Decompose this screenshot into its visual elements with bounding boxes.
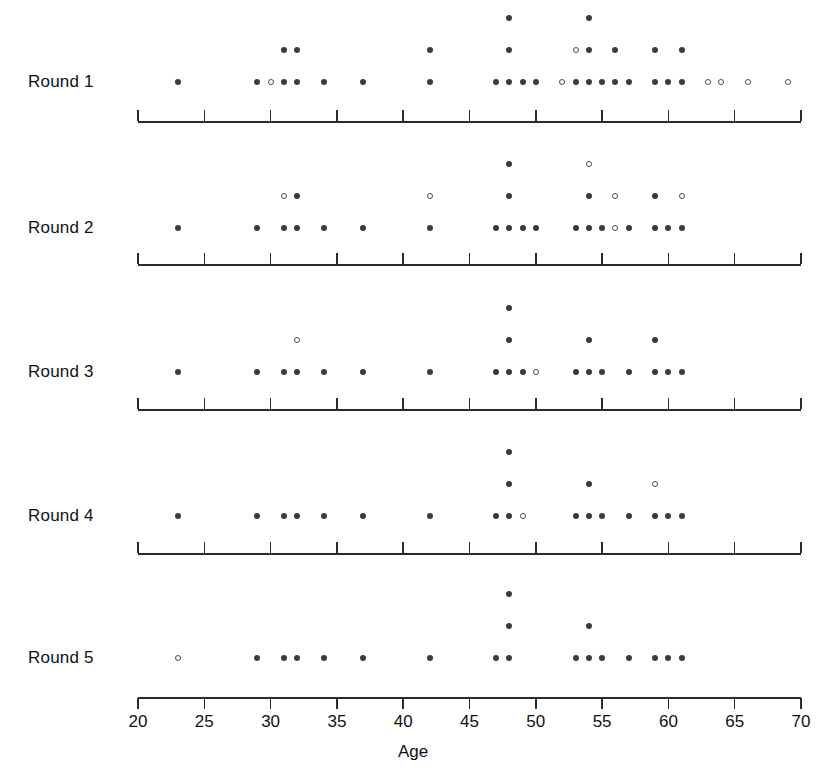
data-point <box>612 225 618 231</box>
axis-tick <box>469 542 471 553</box>
axis-tick <box>601 110 603 121</box>
data-point <box>427 47 433 53</box>
data-point <box>599 79 605 85</box>
data-point <box>586 655 592 661</box>
x-tick-label: 65 <box>725 712 744 732</box>
data-point <box>294 513 300 519</box>
data-point <box>427 79 433 85</box>
axis-tick <box>668 542 670 553</box>
x-tick-label: 50 <box>526 712 545 732</box>
data-point <box>586 513 592 519</box>
axis-tick <box>800 542 802 553</box>
data-point <box>586 337 592 343</box>
data-point <box>281 193 287 199</box>
data-point <box>679 47 685 53</box>
data-point <box>175 655 181 661</box>
axis-tick <box>668 253 670 264</box>
data-point <box>573 79 579 85</box>
axis-tick <box>204 542 206 553</box>
x-tick-label: 20 <box>129 712 148 732</box>
data-point <box>652 225 658 231</box>
data-point <box>493 655 499 661</box>
row-label-2: Round 2 <box>28 218 94 238</box>
data-point <box>573 513 579 519</box>
axis-tick <box>402 542 404 553</box>
axis-tick <box>270 398 272 409</box>
data-point <box>652 481 658 487</box>
data-point <box>321 369 327 375</box>
data-point <box>652 337 658 343</box>
data-point <box>599 225 605 231</box>
axis-tick <box>469 398 471 409</box>
data-point <box>652 655 658 661</box>
axis-tick <box>137 698 139 709</box>
data-point <box>679 369 685 375</box>
data-point <box>506 369 512 375</box>
axis-line-row-1 <box>138 121 801 123</box>
axis-tick <box>668 110 670 121</box>
data-point <box>506 225 512 231</box>
x-tick-label: 25 <box>195 712 214 732</box>
data-point <box>626 369 632 375</box>
x-axis-title: Age <box>0 742 826 762</box>
data-point <box>281 47 287 53</box>
axis-tick <box>601 398 603 409</box>
axis-tick <box>535 253 537 264</box>
data-point <box>573 655 579 661</box>
axis-tick <box>204 110 206 121</box>
axis-tick <box>204 698 206 709</box>
axis-tick <box>734 110 736 121</box>
data-point <box>493 79 499 85</box>
axis-tick <box>336 253 338 264</box>
data-point <box>360 513 366 519</box>
axis-tick <box>601 542 603 553</box>
axis-tick <box>137 542 139 553</box>
data-point <box>281 513 287 519</box>
data-point <box>506 449 512 455</box>
data-point <box>626 225 632 231</box>
row-label-5: Round 5 <box>28 648 94 668</box>
axis-tick <box>270 542 272 553</box>
axis-tick <box>336 398 338 409</box>
x-tick-label: 60 <box>659 712 678 732</box>
data-point <box>506 513 512 519</box>
data-point <box>506 161 512 167</box>
data-point <box>493 513 499 519</box>
data-point <box>294 193 300 199</box>
data-point <box>281 225 287 231</box>
x-tick-label: 30 <box>261 712 280 732</box>
data-point <box>533 79 539 85</box>
data-point <box>427 369 433 375</box>
data-point <box>612 47 618 53</box>
data-point <box>360 79 366 85</box>
data-point <box>427 225 433 231</box>
data-point <box>705 79 711 85</box>
axis-tick <box>800 110 802 121</box>
data-point <box>281 369 287 375</box>
data-point <box>254 225 260 231</box>
data-point <box>506 623 512 629</box>
data-point <box>626 79 632 85</box>
axis-tick <box>800 698 802 709</box>
data-point <box>506 655 512 661</box>
data-point <box>493 225 499 231</box>
data-point <box>586 47 592 53</box>
axis-tick <box>469 110 471 121</box>
data-point <box>573 369 579 375</box>
axis-line-row-4 <box>138 553 801 555</box>
axis-tick <box>270 253 272 264</box>
data-point <box>506 305 512 311</box>
data-point <box>294 79 300 85</box>
data-point <box>559 79 565 85</box>
data-point <box>626 513 632 519</box>
data-point <box>652 369 658 375</box>
data-point <box>599 655 605 661</box>
data-point <box>254 369 260 375</box>
data-point <box>652 193 658 199</box>
x-tick-label: 45 <box>460 712 479 732</box>
data-point <box>652 513 658 519</box>
data-point <box>679 225 685 231</box>
data-point <box>665 225 671 231</box>
data-point <box>586 15 592 21</box>
axis-tick <box>734 398 736 409</box>
